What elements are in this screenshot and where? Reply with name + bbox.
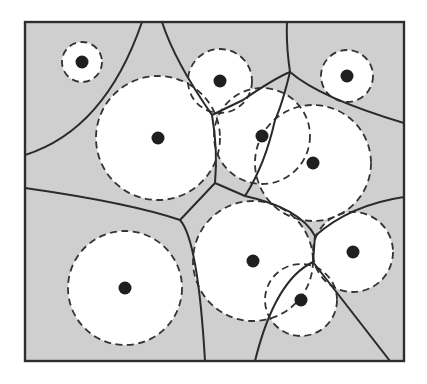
site-point — [256, 130, 269, 143]
diagram-canvas — [0, 0, 427, 384]
site-point — [76, 56, 89, 69]
site-point — [307, 157, 320, 170]
site-point — [152, 132, 165, 145]
site-point — [347, 246, 360, 259]
site-point — [341, 70, 354, 83]
site-point — [247, 255, 260, 268]
site-point — [119, 282, 132, 295]
site-point — [295, 294, 308, 307]
site-point — [214, 75, 227, 88]
power-diagram — [0, 0, 427, 384]
